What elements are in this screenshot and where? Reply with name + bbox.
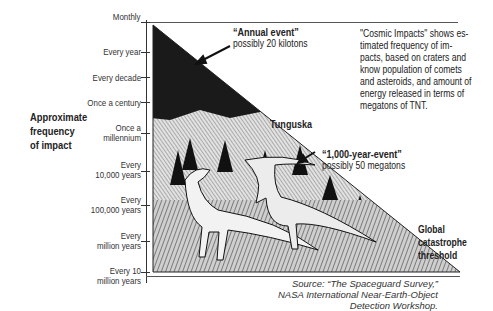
global-line: threshold [418, 249, 457, 261]
figure-description: "Cosmic Impacts" shows es- timated frequ… [360, 28, 476, 112]
annual-event-title: “Annual event” [233, 26, 308, 38]
millennial-event-title: “1,000-year-event” [322, 148, 405, 160]
annual-arrow-icon [196, 46, 230, 64]
source-citation: Source: “The Spaceguard Survey,” NASA In… [278, 278, 438, 311]
annual-event-energy: possibly 20 kilotons [233, 38, 308, 50]
global-line: Global [418, 223, 445, 235]
annual-event-callout: “Annual event” possibly 20 kilotons [233, 26, 308, 50]
tunguska-label: Tunguska [270, 118, 312, 130]
millennial-event-callout: “1,000-year-event” possibly 50 megatons [322, 148, 405, 172]
global-line: catastrophe [418, 236, 467, 248]
global-catastrophe-label: Global catastrophe threshold [418, 223, 467, 262]
millennial-event-energy: possibly 50 megatons [322, 160, 405, 172]
